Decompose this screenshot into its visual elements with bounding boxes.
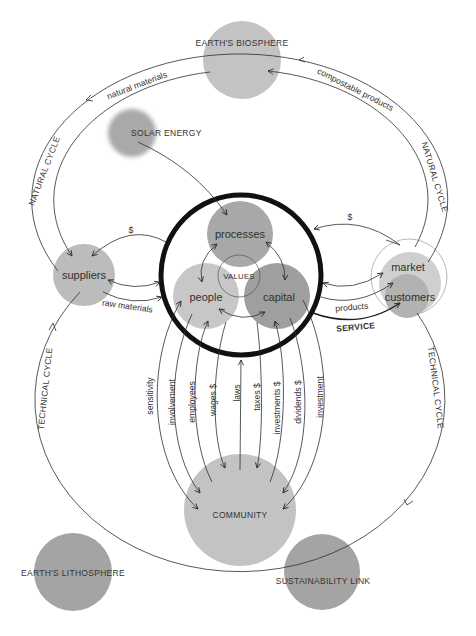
supplier-money-label: $ — [129, 225, 134, 235]
values-label: VALUES — [223, 272, 254, 281]
raw-materials-label: raw materials — [101, 298, 153, 315]
sustainability-diagram: EARTH'S BIOSPHERE SOLAR ENERGY suppliers… — [0, 0, 476, 636]
flow-employees-label: employees — [187, 381, 197, 423]
lithosphere-label: EARTH'S LITHOSPHERE — [21, 568, 125, 578]
flow-involvement-label: involvement — [167, 378, 177, 424]
natural-materials-label: natural materials — [105, 69, 168, 101]
flow-sensitivity-label: sensitivity — [145, 377, 155, 415]
community-label: COMMUNITY — [212, 510, 267, 520]
flow-laws-line — [240, 360, 241, 470]
people-label: people — [189, 291, 222, 303]
solar-energy-arrow — [138, 142, 227, 215]
technical-arrow-right-icon — [404, 499, 413, 505]
market-label: market — [391, 261, 425, 273]
solar-energy-label: SOLAR ENERGY — [131, 128, 202, 138]
flow-wages-label: wages $ — [208, 384, 218, 417]
biosphere-label: EARTH'S BIOSPHERE — [195, 38, 288, 48]
flow-investments-label: investments $ — [272, 381, 282, 434]
processes-label: processes — [215, 228, 266, 240]
market-money-label: $ — [348, 212, 353, 222]
supplier-exchange-arrow — [108, 280, 160, 287]
flow-investment-label: investment — [315, 376, 325, 418]
technical-cycle-right-label: TECHNICAL CYCLE — [426, 346, 446, 430]
natural-cycle-left-label: NATURAL CYCLE — [26, 135, 62, 207]
market-exchange-arrow — [323, 273, 383, 286]
products-label: products — [335, 301, 369, 314]
natural-cycle-right-label: NATURAL CYCLE — [419, 141, 450, 214]
customers-label: customers — [385, 291, 436, 303]
flow-laws-label: laws — [232, 384, 242, 401]
service-label: SERVICE — [336, 320, 376, 333]
compostable-products-label: compostable products — [316, 66, 395, 113]
biosphere-circle — [203, 21, 281, 99]
flow-taxes-label: taxes $ — [252, 383, 262, 411]
outer-arrow-left-icon — [86, 95, 93, 101]
flow-dividends-label: dividends $ — [293, 380, 303, 424]
sustainability-label: SUSTAINABILITY LINK — [276, 576, 371, 586]
market-money-arrow — [314, 224, 400, 245]
suppliers-label: suppliers — [62, 269, 107, 281]
technical-cycle-left-label: TECHNICAL CYCLE — [36, 347, 55, 431]
capital-label: capital — [263, 291, 295, 303]
